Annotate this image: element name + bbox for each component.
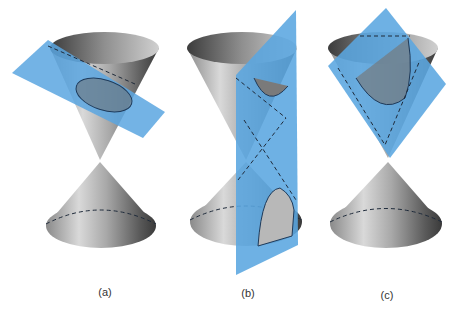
panel-b-hyperbola (187, 10, 302, 275)
conic-sections-figure: (a) (b) (c) (0, 0, 458, 310)
panel-a-label: (a) (90, 286, 120, 298)
panel-c-label: (c) (372, 289, 402, 301)
panel-b-label: (b) (233, 287, 263, 299)
panel-c-parabola (328, 8, 446, 248)
panel-a-ellipse (12, 32, 165, 248)
lower-base (46, 204, 156, 248)
